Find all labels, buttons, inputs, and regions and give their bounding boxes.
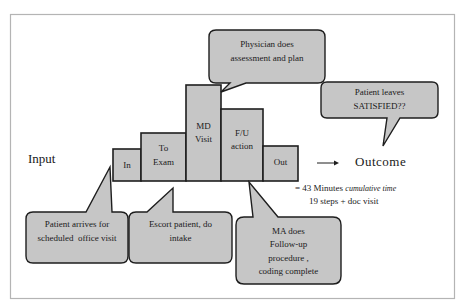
step-md-visit-label: MD Visit	[186, 121, 221, 146]
arrow-right-icon	[317, 161, 339, 166]
callout-satisfied-text: Patient leaves SATISFIED??	[321, 87, 438, 113]
callout-physician-text: Physician does assessment and plan	[209, 39, 325, 65]
input-label: Input	[28, 151, 55, 167]
step-in-label: In	[113, 160, 141, 171]
summary-line-2: 19 steps + doc visit	[309, 196, 379, 207]
step-to-exam-label: To Exam	[141, 143, 186, 169]
summary-line-1: = 43 Minutes cumulative time	[295, 183, 396, 194]
callout-arrives-text: Patient arrives for scheduled office vis…	[26, 219, 128, 245]
callout-escort-text: Escort patient, do intake	[129, 219, 232, 245]
step-out-label: Out	[263, 157, 298, 168]
outcome-label: Outcome	[355, 154, 406, 170]
process-diagram: Input Outcome In To Exam MD Visit F/U ac…	[0, 0, 463, 306]
callout-ma-text: MA does Follow-up procedure , coding com…	[236, 226, 341, 277]
step-fu-action-label: F/U action	[221, 128, 263, 153]
